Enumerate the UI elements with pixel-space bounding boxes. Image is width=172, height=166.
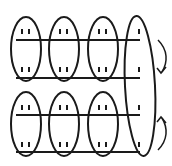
arrow-down-head (157, 67, 166, 73)
group-oval-top-3 (88, 17, 118, 81)
group-oval-bottom-2 (49, 92, 79, 156)
tally-marks (21, 29, 140, 147)
group-oval-top-1 (11, 17, 41, 81)
group-oval-tall (121, 15, 158, 156)
arrow-up-head (157, 117, 166, 123)
grouping-diagram (0, 0, 172, 166)
group-oval-bottom-3 (88, 92, 118, 156)
group-oval-top-2 (49, 17, 79, 81)
group-oval-bottom-1 (11, 92, 41, 156)
